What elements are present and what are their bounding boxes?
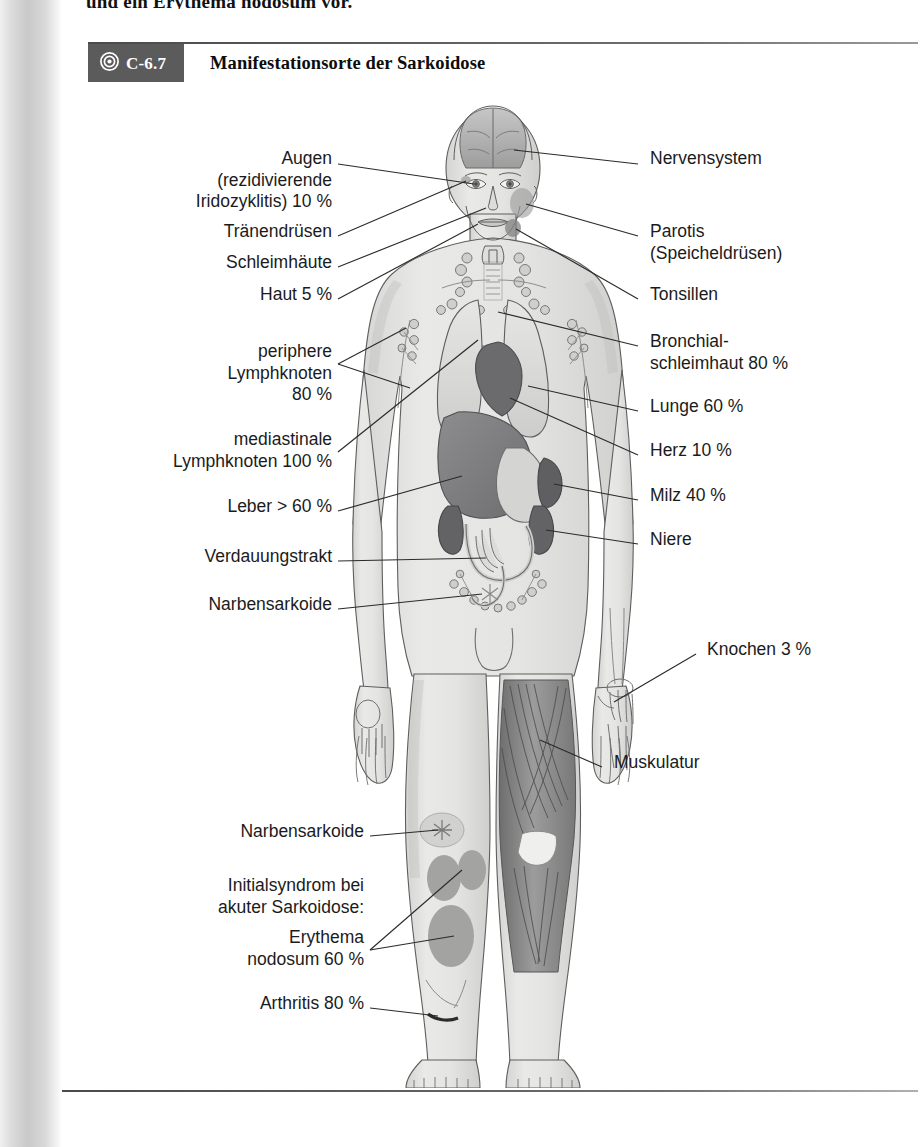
label-augen: Augen (rezidivierende Iridozyklitis) 10 … xyxy=(94,148,332,213)
fingers xyxy=(356,736,630,785)
human-body-sarcoidosis-diagram: Augen (rezidivierende Iridozyklitis) 10 … xyxy=(62,88,924,1088)
eye-right xyxy=(500,180,520,189)
label-parotis: Parotis (Speicheldrüsen) xyxy=(650,221,782,264)
label-verdauungstrakt: Verdauungstrakt xyxy=(94,546,332,568)
figure-title: Manifestationsorte der Sarkoidose xyxy=(184,44,918,82)
scar-sarcoid-knee xyxy=(420,813,464,847)
figure-number-badge: C-6.7 xyxy=(88,44,184,82)
running-text: und ein Erythema nodosum vor. xyxy=(86,0,506,9)
label-leber: Leber > 60 % xyxy=(94,496,332,518)
label-narbensarkoide-abdomen: Narbensarkoide xyxy=(94,594,332,616)
label-narbensarkoide-knie: Narbensarkoide xyxy=(94,821,364,843)
label-knochen: Knochen 3 % xyxy=(707,639,811,661)
label-muskulatur: Muskulatur xyxy=(614,752,700,774)
figure-block: C-6.7 Manifestationsorte der Sarkoidose xyxy=(62,36,924,1096)
label-periphere-lymphknoten: periphere Lymphknoten 80 % xyxy=(94,341,332,406)
figure-number: C-6.7 xyxy=(126,55,166,72)
parotid-gland xyxy=(510,188,534,218)
label-haut: Haut 5 % xyxy=(94,284,332,306)
tonsil xyxy=(505,219,521,237)
brain xyxy=(460,108,526,168)
label-erythema-nodosum: Erythema nodosum 60 % xyxy=(94,927,364,970)
label-tonsillen: Tonsillen xyxy=(650,284,718,306)
label-lunge: Lunge 60 % xyxy=(650,396,743,418)
page-binding-shadow xyxy=(0,0,62,1147)
figure-bottom-rule xyxy=(62,1090,918,1092)
target-icon xyxy=(100,52,119,75)
label-initialsyndrom: Initialsyndrom bei akuter Sarkoidose: xyxy=(94,875,364,918)
label-arthritis: Arthritis 80 % xyxy=(94,993,364,1015)
label-nervensystem: Nervensystem xyxy=(650,148,762,170)
label-herz: Herz 10 % xyxy=(650,440,732,462)
label-mediastinale-lymphknoten: mediastinale Lymphknoten 100 % xyxy=(68,429,332,472)
label-niere: Niere xyxy=(650,529,692,551)
label-bronchialschleimhaut: Bronchial- schleimhaut 80 % xyxy=(650,331,788,374)
label-schleimhaeute: Schleimhäute xyxy=(94,252,332,274)
label-milz: Milz 40 % xyxy=(650,485,726,507)
trachea-thyroid xyxy=(482,246,504,300)
figure-caption-bar: C-6.7 Manifestationsorte der Sarkoidose xyxy=(88,44,918,82)
label-traenendruesen: Tränendrüsen xyxy=(94,221,332,243)
